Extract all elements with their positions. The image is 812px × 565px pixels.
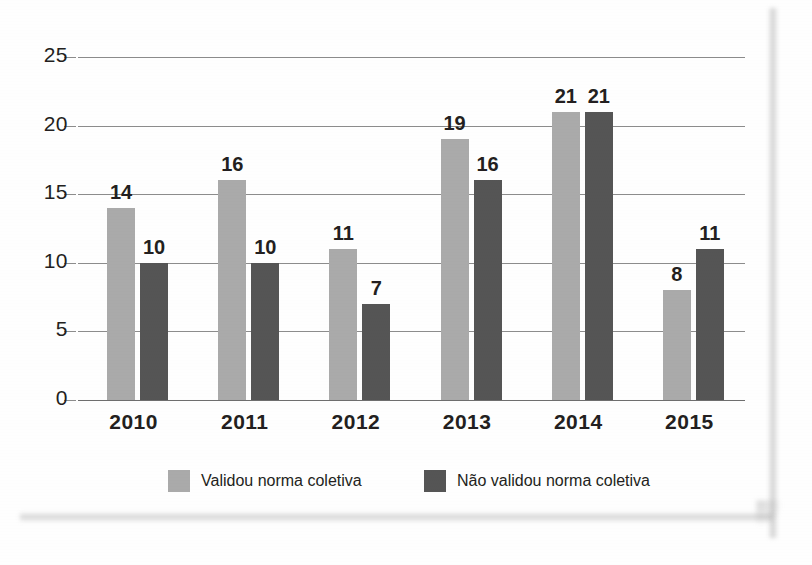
xtick-label-2012: 2012 xyxy=(301,410,411,434)
bar-2013-series-1[interactable] xyxy=(441,139,469,400)
bar-value-label-2012-series-2: 7 xyxy=(353,277,399,300)
bar-2011-series-2[interactable] xyxy=(251,263,279,400)
xtick-label-2013: 2013 xyxy=(412,410,522,434)
bar-2015-series-2[interactable] xyxy=(696,249,724,400)
bar-2012-series-1[interactable] xyxy=(329,249,357,400)
page-edge-shadow-corner xyxy=(756,500,782,526)
bar-value-label-2015-series-1: 8 xyxy=(654,263,700,286)
ytick-label-15: 15 xyxy=(16,180,68,204)
ytick-label-25: 25 xyxy=(16,43,68,67)
bar-2012-series-2[interactable] xyxy=(362,304,390,400)
page-edge-shadow-right xyxy=(768,8,778,538)
chart-legend: Validou norma coletivaNão validou norma … xyxy=(120,468,680,498)
bar-2013-series-2[interactable] xyxy=(474,180,502,400)
bar-group-2011: 1610 xyxy=(218,57,279,400)
gridline-20 xyxy=(78,126,745,127)
bar-value-label-2010-series-1: 14 xyxy=(98,181,144,204)
bar-value-label-2013-series-2: 16 xyxy=(465,153,511,176)
gridline-5 xyxy=(78,331,745,332)
bar-2015-series-1[interactable] xyxy=(663,290,691,400)
bar-2011-series-1[interactable] xyxy=(218,180,246,400)
bar-value-label-2011-series-1: 16 xyxy=(209,153,255,176)
bar-value-label-2013-series-1: 19 xyxy=(432,112,478,135)
bar-group-2014: 2121 xyxy=(552,57,613,400)
page-edge-shadow-bottom xyxy=(20,512,772,522)
bar-value-label-2015-series-2: 11 xyxy=(687,222,733,245)
scanned-page: 1410161011719162121811 Validou norma col… xyxy=(0,0,812,565)
bar-group-2015: 811 xyxy=(663,57,724,400)
bar-value-label-2012-series-1: 11 xyxy=(320,222,366,245)
bar-value-label-2010-series-2: 10 xyxy=(131,236,177,259)
legend-label-1: Validou norma coletiva xyxy=(201,472,362,490)
gridline-25 xyxy=(78,57,745,58)
light-gray-swatch xyxy=(168,470,190,492)
ytick-label-5: 5 xyxy=(16,317,68,341)
plot-area: 1410161011719162121811 xyxy=(78,57,745,400)
gridline-15 xyxy=(78,194,745,195)
bar-value-label-2014-series-2: 21 xyxy=(576,85,622,108)
gridline-10 xyxy=(78,263,745,264)
xtick-label-2015: 2015 xyxy=(634,410,744,434)
bar-group-2012: 117 xyxy=(329,57,390,400)
ytick-label-20: 20 xyxy=(16,112,68,136)
dark-gray-swatch xyxy=(424,470,446,492)
bar-group-2010: 1410 xyxy=(107,57,168,400)
legend-item-2[interactable]: Não validou norma coletiva xyxy=(424,468,650,494)
legend-label-2: Não validou norma coletiva xyxy=(457,472,650,490)
gridline-0 xyxy=(78,400,745,401)
legend-item-1[interactable]: Validou norma coletiva xyxy=(168,468,362,494)
bar-value-label-2011-series-2: 10 xyxy=(242,236,288,259)
grouped-bar-chart: 1410161011719162121811 Validou norma col… xyxy=(0,0,812,565)
xtick-label-2011: 2011 xyxy=(190,410,300,434)
bar-2014-series-1[interactable] xyxy=(552,112,580,400)
bar-group-2013: 1916 xyxy=(441,57,502,400)
xtick-label-2010: 2010 xyxy=(79,410,189,434)
xtick-label-2014: 2014 xyxy=(523,410,633,434)
bar-2014-series-2[interactable] xyxy=(585,112,613,400)
ytick-label-10: 10 xyxy=(16,249,68,273)
bar-2010-series-2[interactable] xyxy=(140,263,168,400)
ytick-label-0: 0 xyxy=(16,386,68,410)
